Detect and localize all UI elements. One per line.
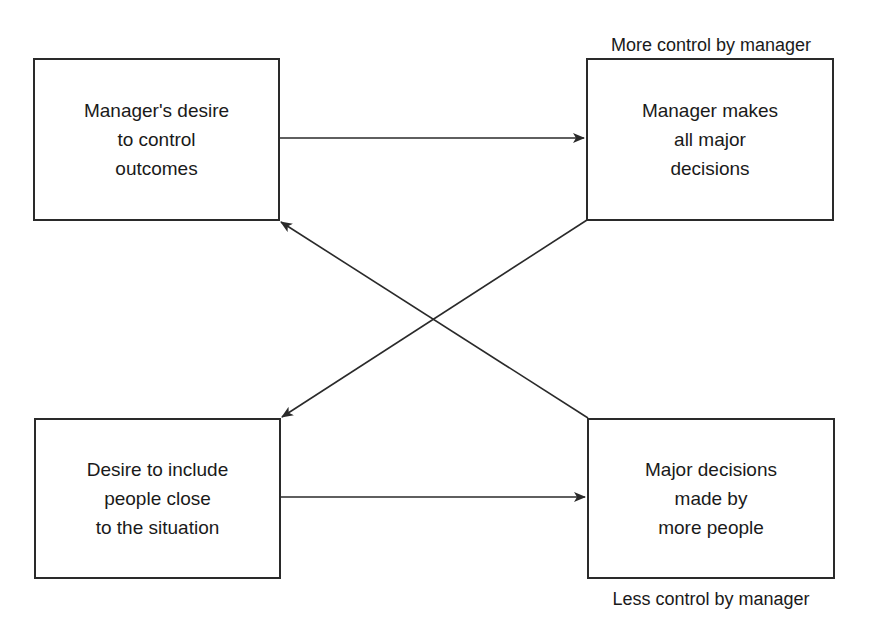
caption-less-control: Less control by manager <box>582 589 840 609</box>
node-label: Desire to include people close to the si… <box>87 455 229 542</box>
diagram-canvas: More control by manager Manager's desire… <box>0 0 871 639</box>
node-decisions-by-more-people: Major decisions made by more people <box>587 418 835 579</box>
node-desire-include-people: Desire to include people close to the si… <box>34 418 281 579</box>
node-label: Manager makes all major decisions <box>642 96 778 183</box>
node-manager-desire-control: Manager's desire to control outcomes <box>33 58 280 221</box>
node-label: Major decisions made by more people <box>645 455 777 542</box>
node-label: Manager's desire to control outcomes <box>84 96 229 183</box>
node-manager-makes-decisions: Manager makes all major decisions <box>586 58 834 221</box>
caption-more-control: More control by manager <box>582 35 840 55</box>
